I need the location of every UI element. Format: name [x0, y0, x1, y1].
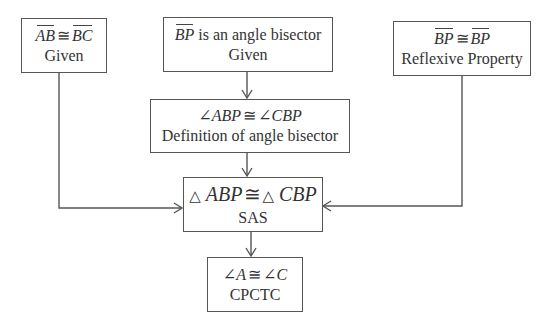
angle-icon: ∠: [223, 266, 236, 283]
triangle-name: ABP: [206, 183, 243, 205]
angle-icon: ∠: [263, 266, 276, 283]
statement: ∠ABP≅∠CBP: [198, 106, 301, 126]
reason: Given: [228, 45, 267, 65]
angle-name: ABP: [212, 107, 241, 124]
node-given-ab-bc: AB≅BC Given: [21, 18, 107, 73]
triangle-icon: △: [262, 188, 274, 204]
reason: Definition of angle bisector: [162, 126, 338, 146]
segment-bp: BP: [434, 29, 454, 49]
angle-icon: ∠: [198, 107, 211, 124]
statement: ∠A≅∠C: [223, 265, 287, 285]
triangle-name: CBP: [279, 183, 317, 205]
congruent-symbol: ≅: [246, 266, 263, 283]
reason: SAS: [238, 208, 267, 228]
congruent-symbol: ≅: [454, 30, 471, 47]
statement: BP≅BP: [434, 29, 490, 49]
segment-bc: BC: [72, 26, 92, 46]
segment-bp: BP: [175, 25, 195, 45]
statement: AB≅BC: [36, 26, 93, 46]
statement-text: is an angle bisector: [194, 26, 321, 43]
congruent-symbol: ≅: [55, 27, 72, 44]
congruent-symbol: ≅: [242, 183, 262, 205]
congruent-symbol: ≅: [241, 107, 258, 124]
node-triangles-sas: △ ABP≅△ CBP SAS: [183, 177, 323, 232]
angle-icon: ∠: [258, 107, 271, 124]
node-angles: ∠ABP≅∠CBP Definition of angle bisector: [150, 99, 350, 153]
reason: Reflexive Property: [401, 49, 522, 69]
statement: △ ABP≅△ CBP: [189, 182, 317, 208]
node-cpctc: ∠A≅∠C CPCTC: [207, 257, 303, 312]
triangle-icon: △: [189, 188, 201, 204]
node-reflexive: BP≅BP Reflexive Property: [393, 21, 531, 76]
reason: Given: [44, 46, 83, 66]
angle-name: CBP: [271, 107, 301, 124]
statement: BP is an angle bisector: [175, 25, 322, 45]
node-bisector-given: BP is an angle bisector Given: [163, 17, 333, 72]
segment-bp: BP: [471, 29, 491, 49]
angle-name: A: [236, 266, 246, 283]
segment-ab: AB: [36, 26, 56, 46]
reason: CPCTC: [230, 285, 281, 305]
angle-name: C: [276, 266, 287, 283]
